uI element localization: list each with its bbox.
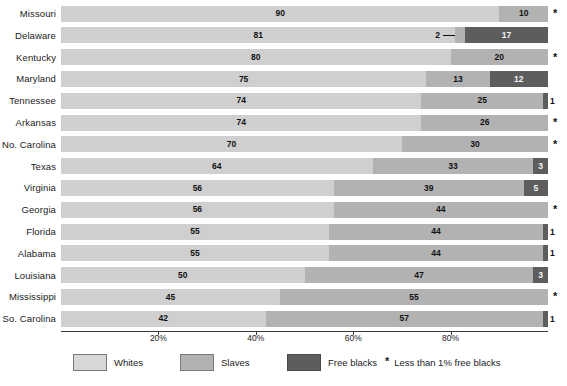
asterisk-marker-icon: *	[385, 356, 389, 367]
stacked-bar: 7030	[61, 136, 548, 152]
segment-value: 55	[190, 227, 199, 236]
row-label-so-carolina: So. Carolina	[0, 308, 56, 329]
bar-segment-whites: 74	[61, 115, 421, 131]
segment-value-outside: 1	[548, 311, 555, 327]
segment-value-outside: 1	[548, 93, 555, 109]
bar-row: Florida55441	[0, 221, 567, 242]
segment-value: 44	[436, 205, 445, 214]
plot-area: Missouri9010*Delaware81172Kentucky8020*M…	[0, 0, 567, 340]
chart-legend: WhitesSlavesFree blacks*Less than 1% fre…	[0, 352, 567, 382]
stacked-bar: 50473	[61, 267, 548, 283]
legend-item-slaves[interactable]: Slaves	[180, 352, 250, 372]
bar-segment-whites: 80	[61, 49, 451, 65]
segment-value: 25	[478, 96, 487, 105]
bar-row: No. Carolina7030*	[0, 134, 567, 155]
bar-segment-whites: 75	[61, 71, 426, 87]
bar-row: Missouri9010*	[0, 3, 567, 24]
segment-value: 5	[533, 184, 538, 193]
bar-segment-slaves: 44	[329, 245, 543, 261]
row-label-texas: Texas	[0, 156, 56, 177]
axis-tick-label: 60%	[345, 333, 362, 343]
bar-row: Virginia56395	[0, 177, 567, 198]
stacked-bar: 5544	[61, 245, 548, 261]
bar-segment-free: 3	[533, 267, 548, 283]
asterisk-marker-icon: *	[550, 289, 557, 305]
bar-row: Maryland751312	[0, 68, 567, 89]
row-label-delaware: Delaware	[0, 25, 56, 46]
legend-item-whites[interactable]: Whites	[73, 352, 143, 372]
bar-row: Tennessee74251	[0, 90, 567, 111]
segment-value: 74	[236, 96, 245, 105]
bar-segment-slaves: 55	[280, 289, 548, 305]
segment-value: 3	[538, 271, 543, 280]
bar-segment-slaves: 13	[426, 71, 489, 87]
legend-footnote-text: Less than 1% free blacks	[394, 357, 500, 368]
bar-row: So. Carolina42571	[0, 308, 567, 329]
bar-segment-whites: 42	[61, 311, 266, 327]
segment-value: 10	[519, 9, 528, 18]
legend-label: Whites	[114, 357, 143, 368]
asterisk-marker-icon: *	[550, 202, 557, 218]
asterisk-marker-icon: *	[550, 6, 557, 22]
legend-swatch-free	[287, 354, 321, 371]
stacked-bar: 4555	[61, 289, 548, 305]
segment-value: 57	[400, 314, 409, 323]
row-label-georgia: Georgia	[0, 199, 56, 220]
bar-segment-free: 3	[533, 158, 548, 174]
stacked-bar: 56395	[61, 180, 548, 196]
segment-value: 26	[480, 118, 489, 127]
bar-segment-whites: 55	[61, 245, 329, 261]
segment-value: 44	[431, 227, 440, 236]
bar-segment-slaves: 30	[402, 136, 548, 152]
callout-leader-line	[443, 35, 455, 36]
bar-row: Mississippi4555*	[0, 286, 567, 307]
stacked-bar: 64333	[61, 158, 548, 174]
row-label-virginia: Virginia	[0, 177, 56, 198]
asterisk-marker-icon: *	[550, 115, 557, 131]
stacked-bar: 8020	[61, 49, 548, 65]
segment-value: 50	[178, 271, 187, 280]
row-label-louisiana: Louisiana	[0, 265, 56, 286]
bar-segment-slaves: 25	[421, 93, 543, 109]
segment-value: 45	[166, 293, 175, 302]
legend-item-free[interactable]: Free blacks	[287, 352, 377, 372]
legend-footnote: *Less than 1% free blacks	[385, 352, 500, 372]
segment-value: 12	[514, 75, 523, 84]
segment-value: 90	[275, 9, 284, 18]
bar-segment-slaves: 44	[334, 202, 548, 218]
stacked-bar: 751312	[61, 71, 548, 87]
row-label-alabama: Alabama	[0, 243, 56, 264]
segment-value: 39	[424, 184, 433, 193]
segment-value-outside: 1	[548, 224, 555, 240]
bar-row: Georgia5644*	[0, 199, 567, 220]
row-label-missouri: Missouri	[0, 3, 56, 24]
row-label-no-carolina: No. Carolina	[0, 134, 56, 155]
stacked-bar: 7426	[61, 115, 548, 131]
bar-segment-free: 17	[465, 27, 548, 43]
bar-row: Louisiana50473	[0, 265, 567, 286]
stacked-bar: 7425	[61, 93, 548, 109]
asterisk-marker-icon: *	[550, 136, 557, 152]
legend-label: Free blacks	[328, 357, 377, 368]
axis-tick-label: 80%	[442, 333, 459, 343]
segment-value: 75	[239, 75, 248, 84]
segment-value: 44	[431, 249, 440, 258]
row-label-kentucky: Kentucky	[0, 47, 56, 68]
bar-segment-free: 5	[524, 180, 548, 196]
stacked-bar: 9010	[61, 6, 548, 22]
bar-segment-whites: 64	[61, 158, 373, 174]
legend-swatch-whites	[73, 354, 107, 371]
bar-segment-whites: 90	[61, 6, 499, 22]
bar-segment-whites: 81	[61, 27, 455, 43]
segment-value: 3	[538, 162, 543, 171]
segment-value-outside: 1	[548, 245, 555, 261]
bar-row: Arkansas7426*	[0, 112, 567, 133]
bar-segment-whites: 50	[61, 267, 305, 283]
segment-value: 81	[254, 31, 263, 40]
axis-tick-label: 40%	[247, 333, 264, 343]
bar-segment-slaves: 39	[334, 180, 524, 196]
bar-segment-slaves: 47	[305, 267, 534, 283]
segment-value: 13	[453, 75, 462, 84]
segment-value: 33	[448, 162, 457, 171]
bar-row: Delaware81172	[0, 25, 567, 46]
